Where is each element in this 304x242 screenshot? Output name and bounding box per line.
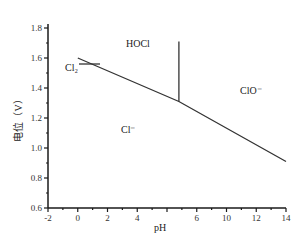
y-tick-label: 1.6 [31,53,43,63]
label-cl2: Cl₂ [65,62,78,73]
x-ticks: -20246101214 [44,208,291,223]
axes [48,24,286,208]
pourbaix-chart: 0.60.81.01.21.41.61.8 -20246101214 pH 电位… [0,0,304,242]
x-tick-label: 4 [135,213,140,223]
y-tick-label: 1.0 [31,143,43,153]
y-tick-label: 0.8 [31,173,43,183]
data-series [78,42,286,162]
y-axis-title: 电位（V） [12,94,24,141]
x-tick-label: 10 [222,213,232,223]
x-tick-label: 6 [195,213,200,223]
y-ticks: 0.60.81.01.21.41.61.8 [31,23,48,213]
x-tick-label: 2 [105,213,110,223]
label-hocl: HOCl [126,38,150,49]
x-tick-label: 12 [252,213,261,223]
redox-boundary-line [78,58,286,162]
x-tick-label: -2 [44,213,52,223]
x-axis-title: pH [154,222,166,233]
y-tick-label: 1.8 [31,23,43,33]
y-tick-label: 1.4 [31,83,43,93]
y-tick-label: 0.6 [31,203,43,213]
label-clo-minus: ClO⁻ [240,85,262,96]
x-tick-label: 14 [282,213,292,223]
y-tick-label: 1.2 [31,113,42,123]
label-cl-minus: Cl⁻ [121,124,135,135]
x-tick-label: 0 [76,213,81,223]
